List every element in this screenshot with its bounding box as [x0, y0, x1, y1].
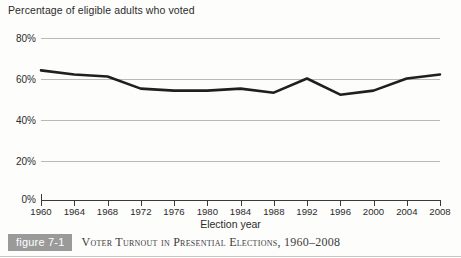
y-tick-label-20: 20%: [4, 156, 36, 167]
figure-caption-text: Voter Turnout in Presential Elections, 1…: [81, 235, 340, 250]
figure-container: Percentage of eligible adults who voted …: [0, 0, 461, 258]
x-tick-label-2008: 2008: [420, 206, 460, 217]
y-tick-label-80: 80%: [4, 33, 36, 44]
y-axis-title: Percentage of eligible adults who voted: [8, 4, 195, 16]
bottom-divider: [0, 256, 461, 257]
y-tick-label-0: 0%: [4, 194, 36, 205]
x-axis-title: Election year: [0, 218, 461, 230]
series-line-chart: [41, 38, 440, 200]
y-tick-label-60: 60%: [4, 74, 36, 85]
figure-caption-bar: figure 7-1 Voter Turnout in Presential E…: [0, 233, 461, 252]
turnout-line: [41, 70, 440, 94]
figure-number-badge: figure 7-1: [8, 234, 72, 252]
y-tick-label-40: 40%: [4, 115, 36, 126]
